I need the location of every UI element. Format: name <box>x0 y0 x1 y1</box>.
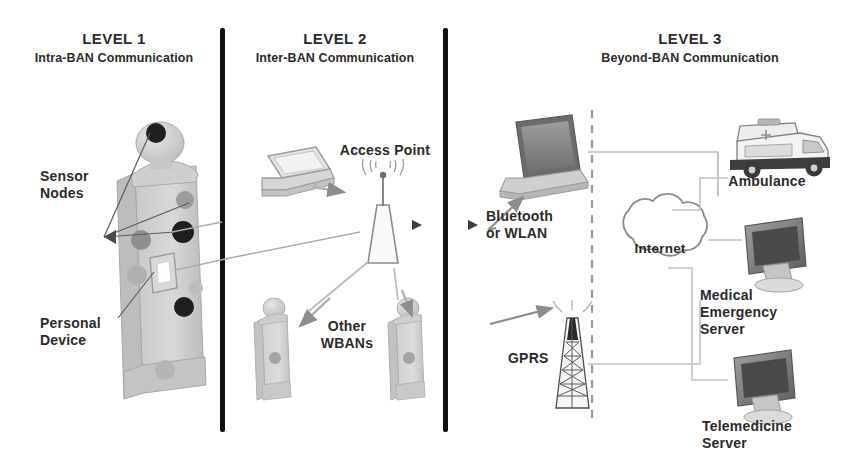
sensor-node-left-chest <box>131 230 151 250</box>
sensor-nodes-label-line2: Nodes <box>40 185 126 202</box>
personal-device-label-line1: Personal <box>40 315 136 332</box>
figure-canvas: LEVEL 1 Intra-BAN Communication LEVEL 2 … <box>0 0 852 472</box>
level-1-title: LEVEL 1 <box>14 30 214 48</box>
level-1-heading: LEVEL 1 Intra-BAN Communication <box>14 30 214 66</box>
laptop-to-ap-arrow <box>313 187 344 192</box>
wban-right-to-ap-line <box>394 268 398 300</box>
divider-level1-level2 <box>220 28 225 432</box>
internet-label: Internet <box>620 240 700 257</box>
level-3-heading: LEVEL 3 Beyond-BAN Communication <box>545 30 835 66</box>
wban-left-to-ap-line <box>304 262 368 315</box>
level-2-title: LEVEL 2 <box>235 30 435 48</box>
divider-level2-level3 <box>443 28 448 432</box>
level3-inbound-arrowhead <box>468 220 478 230</box>
intra-to-inter-link <box>175 232 360 270</box>
level-2-subtitle: Inter-BAN Communication <box>235 50 435 66</box>
telemedicine-label-line2: Server <box>702 435 832 452</box>
human-body-icon <box>117 122 206 399</box>
laptop-arrow-tail <box>313 182 318 187</box>
sensor-node-waist <box>127 265 147 285</box>
sensor-nodes-label: Sensor Nodes <box>40 168 126 202</box>
other-wban-person-left <box>254 298 291 400</box>
gprs-arrow <box>490 308 552 324</box>
other-wbans-label-line2: WBANs <box>308 335 386 352</box>
medical-label-line2: Emergency <box>700 304 820 321</box>
telemedicine-label-line1: Telemedicine <box>702 418 832 435</box>
other-wbans-label: Other WBANs <box>308 318 386 352</box>
antenna-tower-icon <box>362 159 403 263</box>
level-1-subtitle: Intra-BAN Communication <box>14 50 214 66</box>
ambulance-icon <box>730 119 830 179</box>
medical-label-line1: Medical <box>700 287 820 304</box>
ap-to-wban-right-arrow <box>402 290 412 316</box>
personal-device-icon <box>150 253 177 293</box>
body-link-secondary <box>172 222 222 232</box>
telemedicine-server-label: Telemedicine Server <box>702 418 832 452</box>
medical-emergency-server-label: Medical Emergency Server <box>700 287 820 338</box>
personal-device-label: Personal Device <box>40 315 136 349</box>
laptop-icon-level2 <box>262 147 334 196</box>
bluetooth-wlan-label-line2: or WLAN <box>486 225 586 242</box>
sensor-node-hip <box>174 297 194 317</box>
bluetooth-wlan-label: Bluetooth or WLAN <box>486 208 586 242</box>
other-wbans-label-line1: Other <box>308 318 386 335</box>
medical-label-line3: Server <box>700 321 820 338</box>
sensor-nodes-arrowhead <box>104 230 116 244</box>
level-3-subtitle: Beyond-BAN Communication <box>545 50 835 66</box>
sensor-node-head <box>146 123 166 143</box>
ambulance-label: Ambulance <box>715 173 819 190</box>
laptop-icon-level3 <box>500 115 588 200</box>
diagram-artwork <box>0 0 852 472</box>
sensor-node-chest <box>172 221 194 243</box>
sensor-node-side <box>189 281 203 295</box>
sensor-node-leg <box>155 360 175 380</box>
server-monitor-telemedicine-icon <box>734 350 795 424</box>
personal-device-leader-line <box>118 272 154 318</box>
personal-device-label-line2: Device <box>40 332 136 349</box>
other-wban-person-right <box>388 298 425 400</box>
sensor-node-dots <box>127 123 203 380</box>
sensor-nodes-label-line1: Sensor <box>40 168 126 185</box>
bluetooth-wlan-label-line1: Bluetooth <box>486 208 586 225</box>
server-monitor-medical-icon <box>745 218 806 292</box>
gprs-label: GPRS <box>508 350 560 367</box>
sensor-node-shoulder <box>176 191 194 209</box>
access-point-label: Access Point <box>330 142 440 159</box>
level-2-heading: LEVEL 2 Inter-BAN Communication <box>235 30 435 66</box>
ap-inbound-arrowhead <box>412 220 422 230</box>
level-3-title: LEVEL 3 <box>545 30 835 48</box>
